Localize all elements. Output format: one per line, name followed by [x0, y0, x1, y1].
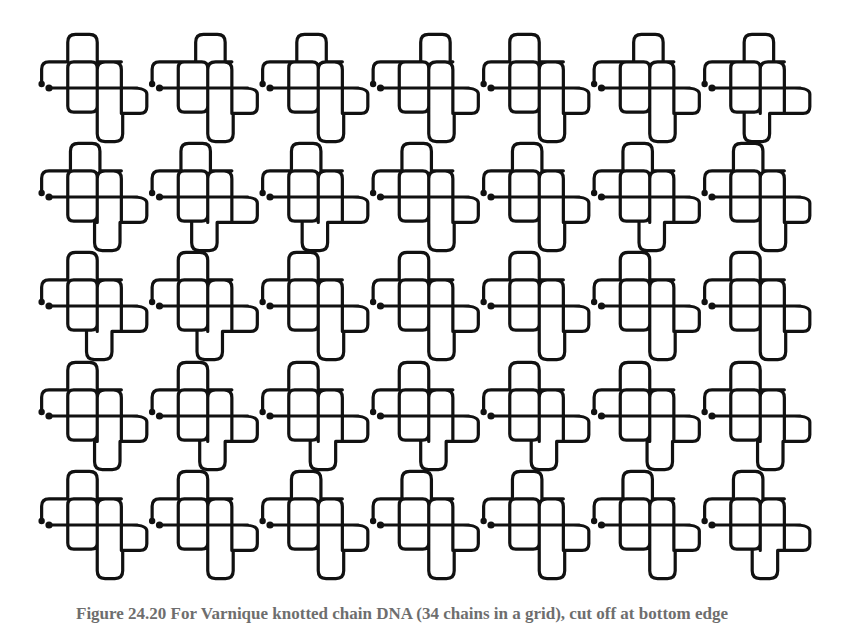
strand-end-dot	[708, 193, 715, 200]
strand-start-dot	[591, 81, 597, 87]
knot-diagram	[38, 34, 146, 141]
strand-start-dot	[259, 190, 265, 196]
strand-start-dot	[149, 81, 155, 87]
strand-end-dot	[266, 521, 273, 528]
knot-diagram	[701, 34, 809, 141]
strand-start-dot	[370, 299, 376, 305]
knot-strand	[263, 34, 368, 141]
knot-diagram	[370, 34, 478, 141]
strand-end-dot	[487, 302, 494, 309]
knot-diagram	[591, 143, 699, 250]
strand-start-dot	[38, 299, 44, 305]
knot-strand	[263, 362, 368, 469]
strand-start-dot	[701, 299, 707, 305]
strand-end-dot	[598, 412, 605, 419]
strand-end-dot	[708, 412, 715, 419]
strand-start-dot	[259, 409, 265, 415]
strand-end-dot	[377, 302, 384, 309]
knot-strand	[594, 143, 699, 250]
knot-diagram	[701, 252, 809, 359]
knot-diagram	[259, 471, 367, 578]
strand-start-dot	[38, 518, 44, 524]
strand-end-dot	[708, 521, 715, 528]
strand-start-dot	[149, 190, 155, 196]
knot-strand	[594, 252, 699, 359]
knot-diagram	[480, 471, 588, 578]
strand-end-dot	[45, 412, 52, 419]
strand-start-dot	[259, 518, 265, 524]
strand-end-dot	[487, 521, 494, 528]
knot-diagram	[149, 471, 257, 578]
knot-diagram	[591, 362, 699, 469]
strand-start-dot	[591, 518, 597, 524]
knot-diagram	[701, 471, 809, 578]
strand-end-dot	[266, 84, 273, 91]
strand-start-dot	[370, 190, 376, 196]
strand-start-dot	[370, 409, 376, 415]
knot-diagram	[701, 143, 809, 250]
strand-start-dot	[149, 409, 155, 415]
knot-grid-figure	[0, 0, 868, 600]
strand-end-dot	[708, 84, 715, 91]
strand-start-dot	[480, 409, 486, 415]
knot-diagram	[38, 252, 146, 359]
knot-strand	[42, 471, 147, 578]
knot-strand	[484, 34, 589, 141]
knot-strand	[152, 362, 257, 469]
knot-diagram	[480, 34, 588, 141]
strand-end-dot	[487, 193, 494, 200]
knot-strand	[594, 362, 699, 469]
strand-end-dot	[266, 412, 273, 419]
knot-diagram	[480, 143, 588, 250]
strand-start-dot	[480, 81, 486, 87]
knot-strand	[373, 362, 478, 469]
knot-strand	[705, 252, 810, 359]
knot-strand	[152, 252, 257, 359]
knot-diagram	[591, 252, 699, 359]
strand-start-dot	[480, 299, 486, 305]
knot-diagram	[480, 252, 588, 359]
knot-strand	[705, 362, 810, 469]
strand-end-dot	[156, 521, 163, 528]
strand-end-dot	[598, 521, 605, 528]
knot-diagram	[259, 362, 367, 469]
knot-diagram	[701, 362, 809, 469]
strand-start-dot	[701, 518, 707, 524]
strand-end-dot	[156, 302, 163, 309]
knot-strand	[594, 471, 699, 578]
knot-strand	[484, 362, 589, 469]
knot-strand	[484, 143, 589, 250]
strand-end-dot	[598, 302, 605, 309]
knot-strand	[705, 471, 810, 578]
strand-end-dot	[156, 193, 163, 200]
knot-diagram	[259, 252, 367, 359]
knot-strand	[705, 143, 810, 250]
strand-start-dot	[38, 409, 44, 415]
strand-end-dot	[45, 521, 52, 528]
strand-start-dot	[591, 299, 597, 305]
knot-strand	[263, 471, 368, 578]
knot-strand	[42, 362, 147, 469]
strand-start-dot	[259, 299, 265, 305]
knot-diagram	[259, 34, 367, 141]
knot-diagram	[370, 143, 478, 250]
knot-diagram	[370, 471, 478, 578]
strand-end-dot	[377, 521, 384, 528]
knot-strand	[373, 252, 478, 359]
knot-strand	[373, 34, 478, 141]
strand-start-dot	[701, 409, 707, 415]
knot-diagram	[480, 362, 588, 469]
knot-strand	[42, 34, 147, 141]
strand-start-dot	[370, 81, 376, 87]
knot-strand	[484, 252, 589, 359]
knot-strand	[152, 34, 257, 141]
knot-diagram	[38, 471, 146, 578]
strand-end-dot	[45, 302, 52, 309]
knot-strand	[42, 252, 147, 359]
strand-end-dot	[156, 84, 163, 91]
strand-start-dot	[38, 81, 44, 87]
knot-diagram	[149, 252, 257, 359]
strand-end-dot	[377, 193, 384, 200]
figure-caption: Figure 24.20 For Varnique knotted chain …	[76, 604, 868, 624]
strand-end-dot	[487, 84, 494, 91]
